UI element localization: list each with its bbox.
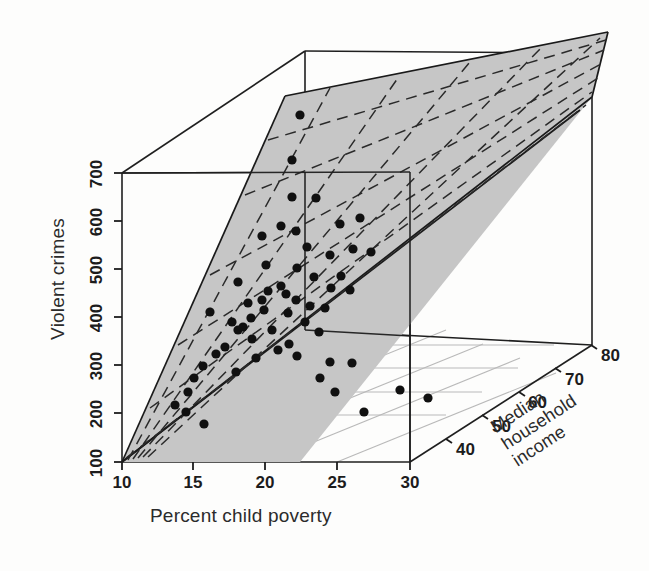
data-point xyxy=(276,281,285,290)
data-point xyxy=(281,289,290,298)
data-point xyxy=(198,361,207,370)
data-point xyxy=(257,231,266,240)
data-point xyxy=(292,263,301,272)
y-tick-400: 400 xyxy=(87,296,107,340)
data-point xyxy=(292,351,301,360)
data-point xyxy=(283,308,292,317)
data-point xyxy=(345,285,354,294)
data-point xyxy=(347,358,356,367)
data-point xyxy=(325,250,334,259)
data-point xyxy=(189,373,198,382)
y-axis-title: Violent crimes xyxy=(47,199,69,359)
data-point xyxy=(309,272,318,281)
data-point xyxy=(183,387,192,396)
data-point xyxy=(314,327,323,336)
y-tick-300: 300 xyxy=(87,344,107,388)
data-point xyxy=(170,400,179,409)
z-tick-70: 70 xyxy=(565,370,584,390)
x-tick-15: 15 xyxy=(176,473,210,493)
data-point xyxy=(423,393,432,402)
data-point xyxy=(243,298,252,307)
data-point xyxy=(231,367,240,376)
z-tick-40: 40 xyxy=(456,440,475,460)
data-point xyxy=(227,317,236,326)
data-point xyxy=(300,317,309,326)
data-point xyxy=(287,192,296,201)
data-point xyxy=(335,219,344,228)
data-point xyxy=(246,313,255,322)
data-point xyxy=(355,213,364,222)
data-point xyxy=(325,357,334,366)
x-tick-20: 20 xyxy=(248,473,282,493)
y-tick-100: 100 xyxy=(87,441,107,485)
y-tick-700: 700 xyxy=(87,152,107,196)
data-point xyxy=(295,110,304,119)
data-point xyxy=(366,247,375,256)
data-point xyxy=(291,295,300,304)
x-tick-25: 25 xyxy=(320,473,354,493)
data-point xyxy=(257,295,266,304)
data-point xyxy=(273,345,282,354)
y-tick-600: 600 xyxy=(87,200,107,244)
data-point xyxy=(251,353,260,362)
data-point xyxy=(220,342,229,351)
data-point xyxy=(181,407,190,416)
data-point xyxy=(395,385,404,394)
data-point xyxy=(233,277,242,286)
figure-canvas: 700 600 500 400 300 200 100 10 15 20 25 … xyxy=(0,0,649,571)
data-point xyxy=(311,193,320,202)
data-point xyxy=(261,260,270,269)
data-point xyxy=(267,325,276,334)
data-point xyxy=(287,155,296,164)
data-point xyxy=(276,221,285,230)
y-tick-500: 500 xyxy=(87,248,107,292)
data-point xyxy=(359,407,368,416)
data-point xyxy=(305,301,314,310)
data-point xyxy=(320,303,329,312)
data-point xyxy=(205,307,214,316)
data-point xyxy=(233,325,242,334)
data-point xyxy=(284,339,293,348)
x-axis-ticks xyxy=(122,462,410,470)
data-point xyxy=(336,271,345,280)
y-axis-ticks xyxy=(114,173,122,462)
data-point xyxy=(302,242,311,251)
data-point xyxy=(263,286,272,295)
y-tick-200: 200 xyxy=(87,392,107,436)
data-point xyxy=(348,244,357,253)
x-tick-10: 10 xyxy=(105,473,139,493)
z-tick-80: 80 xyxy=(601,346,620,366)
data-point xyxy=(211,349,220,358)
data-point xyxy=(315,373,324,382)
data-point xyxy=(259,305,268,314)
data-point xyxy=(291,226,300,235)
x-axis-title: Percent child poverty xyxy=(150,505,332,527)
x-tick-30: 30 xyxy=(393,473,427,493)
data-point xyxy=(330,387,339,396)
data-point xyxy=(247,334,256,343)
data-point xyxy=(326,283,335,292)
data-point xyxy=(199,419,208,428)
